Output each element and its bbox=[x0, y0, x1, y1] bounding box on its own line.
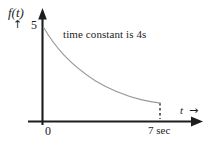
y-tick-label-5: 5 bbox=[31, 19, 37, 31]
y-axis bbox=[38, 8, 47, 125]
figure-container: f(t) ↑ 5 time constant is 4s 0 7 sec t → bbox=[0, 0, 211, 150]
x-axis-arrow-icon: → bbox=[189, 105, 198, 116]
x-axis bbox=[28, 117, 203, 127]
x-axis-label: t bbox=[180, 105, 183, 116]
chart-annotation: time constant is 4s bbox=[63, 29, 146, 40]
x-tick-label-0: 0 bbox=[45, 125, 51, 137]
x-tick-label-7sec: 7 sec bbox=[148, 125, 170, 136]
y-axis-arrow-icon: ↑ bbox=[13, 19, 22, 30]
